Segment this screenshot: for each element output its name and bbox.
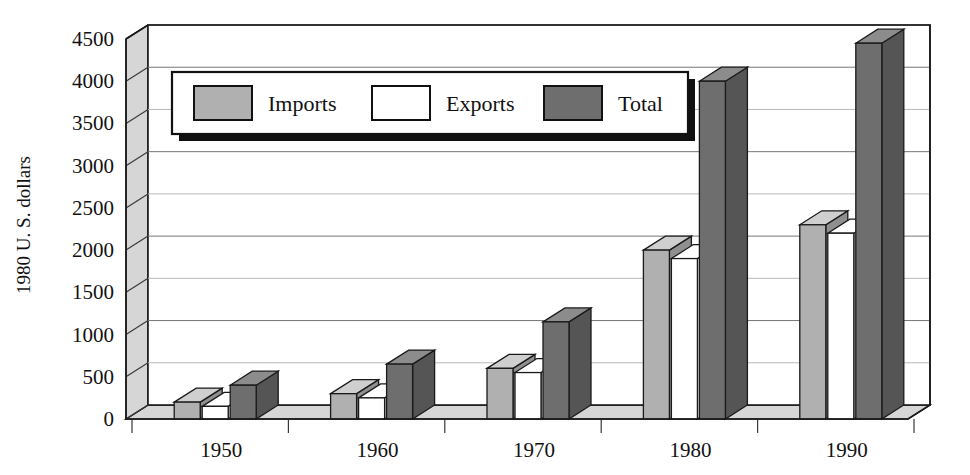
x-axis-ticks bbox=[132, 419, 914, 433]
chart-container: 0500100015002000250030003500400045001980… bbox=[0, 0, 970, 475]
bar-front-face bbox=[856, 43, 882, 419]
bar bbox=[387, 350, 435, 419]
chart-side-wall bbox=[126, 25, 148, 419]
y-tick-label: 3500 bbox=[72, 111, 114, 135]
bar-front-face bbox=[643, 250, 669, 419]
y-tick-label: 2000 bbox=[72, 238, 114, 262]
bar-front-face bbox=[359, 398, 385, 419]
bar-front-face bbox=[331, 394, 357, 419]
bar-front-face bbox=[174, 402, 200, 419]
legend-label: Total bbox=[618, 91, 663, 116]
x-tick-label: 1970 bbox=[513, 438, 555, 462]
bar bbox=[699, 67, 747, 419]
bar-chart-3d: 0500100015002000250030003500400045001980… bbox=[0, 0, 970, 475]
x-tick-label: 1980 bbox=[669, 438, 711, 462]
y-axis-title: 1980 U. S. dollars bbox=[13, 156, 34, 294]
y-tick-label: 4000 bbox=[72, 69, 114, 93]
legend-label: Exports bbox=[446, 91, 514, 116]
bar-front-face bbox=[543, 322, 569, 419]
bar bbox=[543, 308, 591, 419]
bar-front-face bbox=[699, 81, 725, 419]
legend: ImportsExportsTotal bbox=[172, 72, 695, 141]
bar-front-face bbox=[230, 385, 256, 419]
x-tick-label: 1950 bbox=[200, 438, 242, 462]
legend-swatch bbox=[194, 86, 252, 120]
y-tick-label: 1000 bbox=[72, 323, 114, 347]
y-tick-label: 2500 bbox=[72, 196, 114, 220]
bar-front-face bbox=[828, 233, 854, 419]
y-tick-label: 4500 bbox=[72, 27, 114, 51]
y-tick-label: 0 bbox=[104, 407, 115, 431]
bar-front-face bbox=[487, 368, 513, 419]
y-tick-label: 1500 bbox=[72, 280, 114, 304]
bar-front-face bbox=[515, 373, 541, 419]
y-tick-label: 500 bbox=[83, 365, 115, 389]
bar-front-face bbox=[202, 406, 228, 419]
legend-label: Imports bbox=[268, 91, 336, 116]
x-tick-label: 1990 bbox=[826, 438, 868, 462]
legend-swatch bbox=[372, 86, 430, 120]
y-tick-label: 3000 bbox=[72, 154, 114, 178]
bar-side-face bbox=[569, 308, 591, 419]
bar-front-face bbox=[387, 364, 413, 419]
bar-front-face bbox=[800, 225, 826, 419]
x-axis-tick-labels: 19501960197019801990 bbox=[200, 438, 868, 462]
y-axis-tick-labels: 050010001500200025003000350040004500 bbox=[72, 27, 114, 431]
bar-side-face bbox=[725, 67, 747, 419]
x-tick-label: 1960 bbox=[357, 438, 399, 462]
legend-swatch bbox=[544, 86, 602, 120]
bar-side-face bbox=[882, 29, 904, 419]
bar-front-face bbox=[671, 259, 697, 419]
bar bbox=[856, 29, 904, 419]
